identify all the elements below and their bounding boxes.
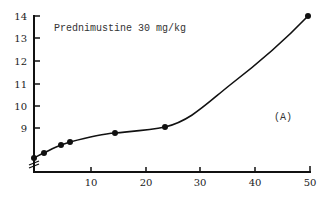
y-tick-label-13: 13: [14, 33, 27, 44]
y-tick-label-10: 10: [14, 101, 27, 112]
series-line: [34, 16, 308, 158]
panel-annotation: (A): [274, 112, 292, 123]
data-point: [31, 155, 37, 161]
x-tick-label-50: 50: [304, 177, 317, 188]
x-tick-label-40: 40: [249, 177, 262, 188]
chart-canvas: 14 13 12 11 10 9 10 20 30 40 50 Prednimu…: [0, 0, 331, 202]
x-tick-label-20: 20: [140, 177, 153, 188]
series-points: [31, 13, 311, 161]
data-point: [67, 139, 73, 145]
data-point: [58, 142, 64, 148]
x-tick-label-30: 30: [194, 177, 207, 188]
y-tick-label-9: 9: [21, 123, 27, 134]
y-tick-label-14: 14: [14, 11, 27, 22]
data-point: [305, 13, 311, 19]
chart-title: Prednimustine 30 mg/kg: [54, 23, 186, 34]
data-point: [162, 124, 168, 130]
data-point: [41, 150, 47, 156]
y-tick-label-11: 11: [14, 79, 27, 90]
data-point: [112, 130, 118, 136]
y-tick-label-12: 12: [14, 56, 27, 67]
x-tick-label-10: 10: [85, 177, 98, 188]
